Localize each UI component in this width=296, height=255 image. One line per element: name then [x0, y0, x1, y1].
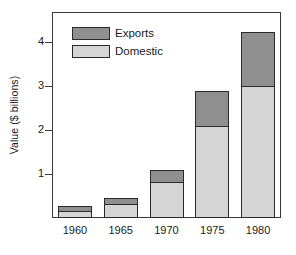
y-axis-label-4: 4 — [14, 36, 44, 47]
x-axis-label-1970: 1970 — [145, 224, 189, 236]
bar-group-1960[interactable] — [58, 206, 92, 218]
bar-group-1975[interactable] — [195, 91, 229, 218]
bar-segment-exports-1980[interactable] — [241, 32, 275, 87]
bar-segment-exports-1970[interactable] — [150, 170, 184, 183]
legend-item-domestic[interactable]: Domestic — [72, 42, 163, 58]
x-axis-label-1965: 1965 — [99, 224, 143, 236]
bar-segment-exports-1965[interactable] — [104, 198, 138, 205]
bar-segment-domestic-1980[interactable] — [241, 86, 275, 218]
legend-label-domestic: Domestic — [115, 45, 163, 58]
bar-segment-exports-1960[interactable] — [58, 206, 92, 212]
bar-segment-domestic-1975[interactable] — [195, 126, 229, 218]
legend-swatch-exports — [72, 27, 110, 40]
bar-group-1965[interactable] — [104, 198, 138, 218]
x-axis-label-1960: 1960 — [53, 224, 97, 236]
y-axis-label-1: 1 — [14, 168, 44, 179]
legend-item-exports[interactable]: Exports — [72, 24, 163, 40]
bar-segment-exports-1975[interactable] — [195, 91, 229, 127]
x-axis-label-1975: 1975 — [190, 224, 234, 236]
bar-group-1970[interactable] — [150, 170, 184, 218]
legend-swatch-domestic — [72, 45, 110, 58]
chart-legend: ExportsDomestic — [72, 24, 163, 60]
x-axis-label-1980: 1980 — [236, 224, 280, 236]
y-axis-label-2: 2 — [14, 124, 44, 135]
bar-segment-domestic-1965[interactable] — [104, 204, 138, 218]
chart-container: Value ($ billions) 1234 1960196519701975… — [0, 0, 296, 255]
y-axis-label-3: 3 — [14, 80, 44, 91]
bar-segment-domestic-1970[interactable] — [150, 182, 184, 218]
legend-label-exports: Exports — [115, 27, 154, 40]
bar-group-1980[interactable] — [241, 32, 275, 218]
